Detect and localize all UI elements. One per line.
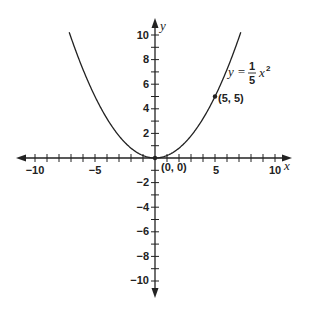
y-axis-label: y (158, 18, 166, 33)
equation-exponent: 2 (266, 64, 271, 73)
origin-point (153, 156, 157, 160)
y-tick-label: 8 (143, 53, 149, 65)
y-tick-label: −4 (136, 201, 149, 213)
x-axis-label: x (283, 158, 290, 173)
x-tick-label: 5 (213, 164, 219, 176)
equation-label: y = 1 5 x 2 (226, 60, 271, 86)
y-tick-label: −2 (136, 176, 149, 188)
parabola-graph: −10 −5 5 10 10 8 6 4 2 −2 −4 −6 −8 −10 y… (0, 0, 309, 316)
y-tick-label: 4 (143, 102, 150, 114)
y-tick-label: −6 (136, 225, 149, 237)
x-tick-label: −5 (89, 164, 102, 176)
equation-numerator: 1 (249, 60, 255, 72)
y-tick-label: 10 (137, 29, 149, 41)
origin-label: (0, 0) (161, 161, 187, 173)
equation-denominator: 5 (249, 74, 255, 86)
y-tick-label: 6 (143, 78, 149, 90)
equation-lhs: y = (226, 64, 246, 79)
y-tick-label: −10 (130, 274, 149, 286)
x-tick-label: 10 (269, 164, 281, 176)
point-label: (5, 5) (218, 92, 244, 104)
y-tick-label: −8 (136, 250, 149, 262)
point-5-5 (213, 94, 217, 98)
equation-variable: x (258, 65, 265, 80)
x-tick-label: −10 (26, 164, 45, 176)
y-tick-label: 2 (143, 127, 149, 139)
